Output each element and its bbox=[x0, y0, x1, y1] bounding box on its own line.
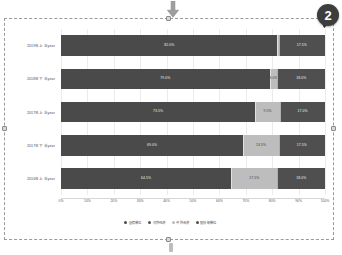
data-label: 69.0% bbox=[147, 144, 157, 147]
legend-swatch bbox=[148, 221, 151, 224]
bar-row[interactable]: 82.0%17.5% bbox=[61, 29, 325, 62]
data-label: 79.0% bbox=[160, 77, 170, 80]
y-axis-label: 2017年上半year bbox=[13, 95, 59, 128]
y-axis-category-labels: 2019年上半year2018年下半year2017年上半year2017年下半… bbox=[13, 29, 59, 195]
bar-segment[interactable]: 82.0% bbox=[61, 35, 277, 56]
legend-label: 中外合资 bbox=[176, 220, 188, 225]
stacked-bar-chart[interactable]: 2019年上半year2018年下半year2017年上半year2017年下半… bbox=[5, 19, 333, 239]
stacked-bar[interactable]: 82.0%17.5% bbox=[61, 35, 325, 56]
legend-item[interactable]: 国有单位 bbox=[124, 220, 141, 225]
callout-badge-2[interactable]: 2 bbox=[317, 4, 339, 26]
x-axis-tick: 60% bbox=[216, 199, 223, 203]
legend-label: 对外经济 bbox=[153, 220, 165, 225]
bar-segment[interactable]: 17.0% bbox=[280, 102, 325, 123]
legend-swatch bbox=[196, 221, 199, 224]
x-axis-tick: 90% bbox=[295, 199, 302, 203]
legend-swatch bbox=[172, 221, 175, 224]
bar-segment[interactable]: 18.0% bbox=[277, 69, 325, 90]
stacked-bar[interactable]: 69.0%13.5%17.5% bbox=[61, 135, 325, 156]
data-label: 3.0% bbox=[270, 77, 278, 80]
y-axis-label: 2016年上半year bbox=[13, 162, 59, 195]
callout-number: 2 bbox=[317, 4, 339, 26]
x-axis-tick: 0% bbox=[59, 199, 64, 203]
stacked-bar[interactable]: 79.0%3.0%18.0% bbox=[61, 69, 325, 90]
data-label: 64.5% bbox=[141, 177, 151, 180]
drag-handle-icon[interactable] bbox=[169, 243, 173, 252]
legend-label: 股份制单位 bbox=[200, 220, 216, 225]
data-label: 17.5% bbox=[249, 177, 259, 180]
y-axis-label: 2018年下半year bbox=[13, 62, 59, 95]
x-axis-tick: 80% bbox=[269, 199, 276, 203]
data-label: 18.0% bbox=[296, 77, 306, 80]
bar-series-container: 82.0%17.5%79.0%3.0%18.0%73.5%9.5%17.0%69… bbox=[61, 29, 325, 195]
x-axis-tick: 50% bbox=[190, 199, 197, 203]
x-axis-tick: 40% bbox=[163, 199, 170, 203]
data-label: 18.0% bbox=[296, 177, 306, 180]
legend-item[interactable]: 股份制单位 bbox=[196, 220, 216, 225]
bar-segment[interactable]: 73.5% bbox=[61, 102, 255, 123]
data-label: 73.5% bbox=[153, 110, 163, 113]
data-label: 13.5% bbox=[256, 144, 266, 147]
bar-segment[interactable]: 64.5% bbox=[61, 168, 231, 189]
data-label: 82.0% bbox=[164, 44, 174, 47]
chart-object-selection-frame[interactable]: 2019年上半year2018年下半year2017年上半year2017年下半… bbox=[4, 18, 334, 240]
bar-segment[interactable]: 9.5% bbox=[255, 102, 280, 123]
data-label: 17.5% bbox=[297, 44, 307, 47]
bar-row[interactable]: 79.0%3.0%18.0% bbox=[61, 62, 325, 95]
x-axis-tick: 70% bbox=[242, 199, 249, 203]
y-axis-label: 2017年下半year bbox=[13, 129, 59, 162]
bar-segment[interactable]: 17.5% bbox=[231, 168, 277, 189]
bar-segment[interactable]: 17.5% bbox=[279, 35, 325, 56]
bar-segment[interactable]: 3.0% bbox=[270, 69, 278, 90]
stacked-bar[interactable]: 73.5%9.5%17.0% bbox=[61, 102, 325, 123]
data-label: 17.0% bbox=[297, 110, 307, 113]
bar-segment[interactable]: 13.5% bbox=[243, 135, 279, 156]
chart-legend[interactable]: 国有单位对外经济中外合资股份制单位 bbox=[13, 217, 327, 227]
bar-segment[interactable]: 18.0% bbox=[277, 168, 325, 189]
legend-item[interactable]: 中外合资 bbox=[172, 220, 189, 225]
legend-item[interactable]: 对外经济 bbox=[148, 220, 165, 225]
data-label: 17.5% bbox=[297, 144, 307, 147]
bar-segment[interactable]: 69.0% bbox=[61, 135, 243, 156]
x-axis-tick: 30% bbox=[137, 199, 144, 203]
y-axis-label: 2019年上半year bbox=[13, 29, 59, 62]
bar-row[interactable]: 64.5%17.5%18.0% bbox=[61, 162, 325, 195]
bar-segment[interactable]: 79.0% bbox=[61, 69, 270, 90]
stacked-bar[interactable]: 64.5%17.5%18.0% bbox=[61, 168, 325, 189]
bar-segment[interactable]: 17.5% bbox=[279, 135, 325, 156]
x-axis-tick: 100% bbox=[321, 199, 330, 203]
plot-area: 82.0%17.5%79.0%3.0%18.0%73.5%9.5%17.0%69… bbox=[61, 29, 325, 195]
data-label: 9.5% bbox=[264, 110, 272, 113]
bar-row[interactable]: 69.0%13.5%17.5% bbox=[61, 129, 325, 162]
legend-label: 国有单位 bbox=[129, 220, 141, 225]
gridline bbox=[325, 29, 326, 195]
bar-row[interactable]: 73.5%9.5%17.0% bbox=[61, 95, 325, 128]
x-axis-tick-labels: 0%10%20%30%40%50%60%70%80%90%100% bbox=[61, 199, 325, 209]
legend-swatch bbox=[124, 221, 127, 224]
x-axis-tick: 10% bbox=[84, 199, 91, 203]
x-axis-tick: 20% bbox=[110, 199, 117, 203]
